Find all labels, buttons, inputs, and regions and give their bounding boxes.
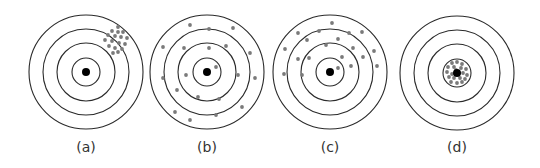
shot-point <box>248 51 252 55</box>
shot-point <box>173 110 177 114</box>
shot-point <box>296 31 300 35</box>
shot-point <box>207 27 211 31</box>
target-b <box>150 15 264 129</box>
shot-point <box>361 55 365 59</box>
shot-point <box>324 43 328 47</box>
shot-point <box>340 55 344 59</box>
shot-point <box>372 49 376 53</box>
target-label-c: (c) <box>321 139 340 155</box>
shot-point <box>375 64 379 68</box>
shot-point <box>240 105 244 109</box>
shot-point <box>305 38 309 42</box>
shot-point <box>236 73 240 77</box>
bullseye <box>82 68 90 76</box>
shot-point <box>106 33 110 37</box>
shot-point <box>196 95 200 99</box>
shot-point <box>458 76 462 80</box>
target-d <box>400 16 514 130</box>
shot-point <box>113 46 117 50</box>
shot-point <box>317 29 321 33</box>
target-a <box>29 15 143 129</box>
target-c <box>273 15 387 129</box>
shot-point <box>103 38 107 42</box>
shot-point <box>347 31 351 35</box>
shot-point <box>351 46 355 50</box>
shot-point <box>161 45 165 49</box>
shot-point <box>117 41 121 45</box>
target-label-d: (d) <box>447 139 467 155</box>
shot-point <box>123 42 127 46</box>
shot-point <box>459 66 463 70</box>
shot-point <box>336 37 340 41</box>
shot-point <box>231 26 235 30</box>
shot-point <box>207 46 211 50</box>
shot-point <box>182 46 186 50</box>
shot-point <box>455 81 459 85</box>
shot-point <box>464 67 468 71</box>
shot-point <box>465 73 469 77</box>
shot-point <box>116 30 120 34</box>
shot-point <box>330 21 334 25</box>
shot-point <box>188 23 192 27</box>
shot-point <box>336 66 340 70</box>
shot-point <box>296 57 300 61</box>
shot-point <box>217 97 221 101</box>
shot-point <box>113 34 117 38</box>
shot-point <box>110 29 114 33</box>
shot-point <box>214 65 218 69</box>
shot-point <box>161 76 165 80</box>
shot-point <box>460 62 464 66</box>
shot-point <box>253 76 257 80</box>
shot-point <box>116 50 120 54</box>
shot-point <box>461 71 465 75</box>
shot-point <box>224 44 228 48</box>
bullseye <box>326 68 334 76</box>
shot-point <box>111 51 115 55</box>
target-label-a: (a) <box>76 139 96 155</box>
shot-point <box>119 35 123 39</box>
shot-point <box>116 25 120 29</box>
target-label-b: (b) <box>197 139 217 155</box>
shot-point <box>349 64 353 68</box>
bullseye <box>453 69 461 77</box>
shot-point <box>282 72 286 76</box>
shot-point <box>445 70 449 74</box>
shot-point <box>360 30 364 34</box>
shot-point <box>452 76 456 80</box>
shot-point <box>460 80 464 84</box>
shot-point <box>175 88 179 92</box>
shot-point <box>449 80 453 84</box>
bullseye <box>203 68 211 76</box>
shot-point <box>188 118 192 122</box>
shot-point <box>307 56 311 60</box>
shot-point <box>110 39 114 43</box>
shot-point <box>455 60 459 64</box>
shot-point <box>450 61 454 65</box>
shot-point <box>446 65 450 69</box>
shot-point <box>214 113 218 117</box>
shot-point <box>463 77 467 81</box>
shot-point <box>120 47 124 51</box>
shot-point <box>283 47 287 51</box>
shot-point <box>184 73 188 77</box>
shot-point <box>107 44 111 48</box>
shot-point <box>121 30 125 34</box>
shot-point <box>125 36 129 40</box>
shot-point <box>447 75 451 79</box>
shot-point <box>300 73 304 77</box>
